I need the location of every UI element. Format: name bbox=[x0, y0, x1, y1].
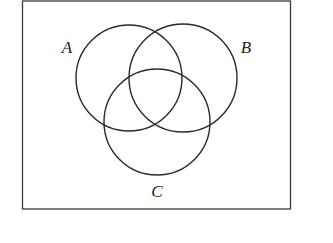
venn-diagram: A B C bbox=[0, 0, 333, 243]
circle-b bbox=[129, 24, 237, 132]
label-b: B bbox=[241, 38, 252, 57]
label-c: C bbox=[151, 182, 163, 201]
circle-c bbox=[104, 69, 210, 175]
label-a: A bbox=[61, 38, 73, 57]
